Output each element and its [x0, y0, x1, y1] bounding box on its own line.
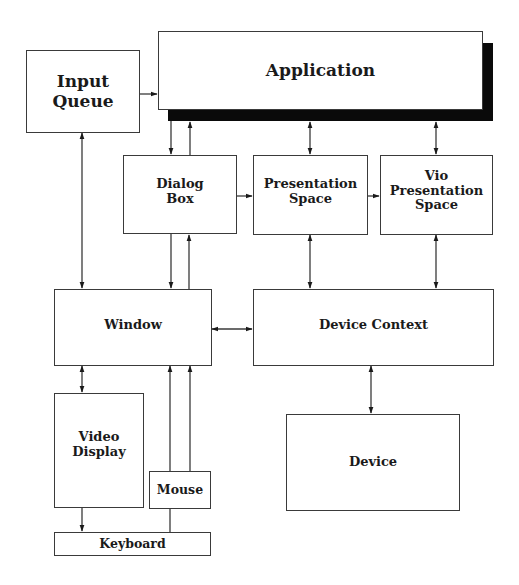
node-application: Application — [158, 31, 483, 110]
node-device-label: Device — [349, 455, 397, 470]
node-dialog-box: Dialog Box — [123, 155, 237, 234]
node-vio-presentation-space-label: Vio Presentation Space — [390, 169, 483, 214]
node-window: Window — [54, 289, 212, 366]
node-video-display: Video Display — [54, 393, 144, 508]
node-mouse-label: Mouse — [157, 483, 203, 497]
node-device-context-label: Device Context — [319, 318, 428, 333]
node-presentation-space: Presentation Space — [253, 155, 368, 235]
node-application-label: Application — [266, 61, 375, 81]
node-keyboard-label: Keyboard — [99, 537, 165, 551]
node-keyboard: Keyboard — [54, 532, 211, 556]
node-dialog-box-label: Dialog Box — [156, 177, 203, 207]
node-mouse: Mouse — [149, 471, 211, 509]
node-device-context: Device Context — [253, 289, 494, 366]
node-video-display-label: Video Display — [72, 430, 126, 460]
node-input-queue-label: Input Queue — [27, 72, 139, 111]
node-input-queue: Input Queue — [26, 50, 140, 133]
node-presentation-space-label: Presentation Space — [264, 177, 357, 207]
node-window-label: Window — [104, 318, 162, 333]
node-vio-presentation-space: Vio Presentation Space — [380, 155, 493, 235]
node-device: Device — [286, 414, 460, 511]
diagram-canvas: Application Input Queue Dialog Box Prese… — [0, 0, 519, 585]
